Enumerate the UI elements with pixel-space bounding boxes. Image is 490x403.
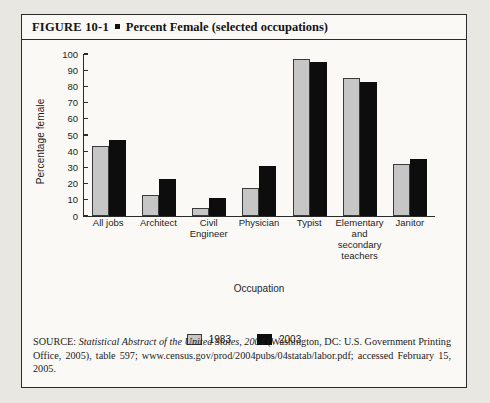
x-axis-label: Occupation [83,283,435,294]
figure-header: FIGURE 10-1 Percent Female (selected occ… [22,15,466,40]
figure-number: FIGURE 10-1 [32,20,109,35]
bar-group [343,54,377,216]
y-tick-label: 60 [67,113,84,124]
bar-group [242,54,276,216]
bar-2003 [159,179,176,216]
x-tick-label: CivilEngineer [184,217,234,261]
bar-series-container [84,54,435,216]
x-tick-label: Janitor [385,217,435,261]
y-tick-label: 20 [67,178,84,189]
bar-2003 [410,159,427,216]
bar-1983 [393,164,410,216]
bar-group [293,54,327,216]
bar-2003 [109,140,126,216]
source-prefix: SOURCE: [33,336,79,347]
y-tick-label: 40 [67,146,84,157]
y-tick-label: 30 [67,162,84,173]
x-tick-label: All jobs [83,217,133,261]
bar-group [142,54,176,216]
x-tick-label: Elementaryandsecondaryteachers [334,217,384,261]
source-title: Statistical Abstract of the United State… [79,336,265,347]
bar-2003 [310,62,327,216]
y-tick-label: 50 [67,130,84,141]
y-tick-label: 90 [67,65,84,76]
figure-box: FIGURE 10-1 Percent Female (selected occ… [21,14,467,388]
bar-1983 [142,195,159,216]
x-axis-ticks: All jobsArchitectCivilEngineerPhysicianT… [83,217,435,261]
bar-1983 [92,146,109,216]
figure-title: Percent Female (selected occupations) [126,20,328,35]
bullet-icon [115,24,120,29]
y-tick-label: 10 [67,194,84,205]
plot-area: 0102030405060708090100 [83,54,435,217]
bar-group [393,54,427,216]
bar-1983 [293,59,310,216]
bar-group [192,54,226,216]
bar-1983 [242,188,259,216]
y-tick-label: 70 [67,97,84,108]
x-tick-label: Architect [133,217,183,261]
bar-2003 [259,166,276,216]
bar-1983 [192,208,209,216]
source-note: SOURCE: Statistical Abstract of the Unit… [33,335,451,376]
bar-2003 [209,198,226,216]
bar-2003 [360,82,377,216]
chart-area: Percentage female 0102030405060708090100… [22,40,466,323]
y-tick-label: 100 [62,49,84,60]
y-axis-label: Percentage female [35,77,46,207]
bar-group [92,54,126,216]
x-tick-label: Typist [284,217,334,261]
y-tick-label: 80 [67,81,84,92]
x-tick-label: Physician [234,217,284,261]
bar-1983 [343,78,360,216]
